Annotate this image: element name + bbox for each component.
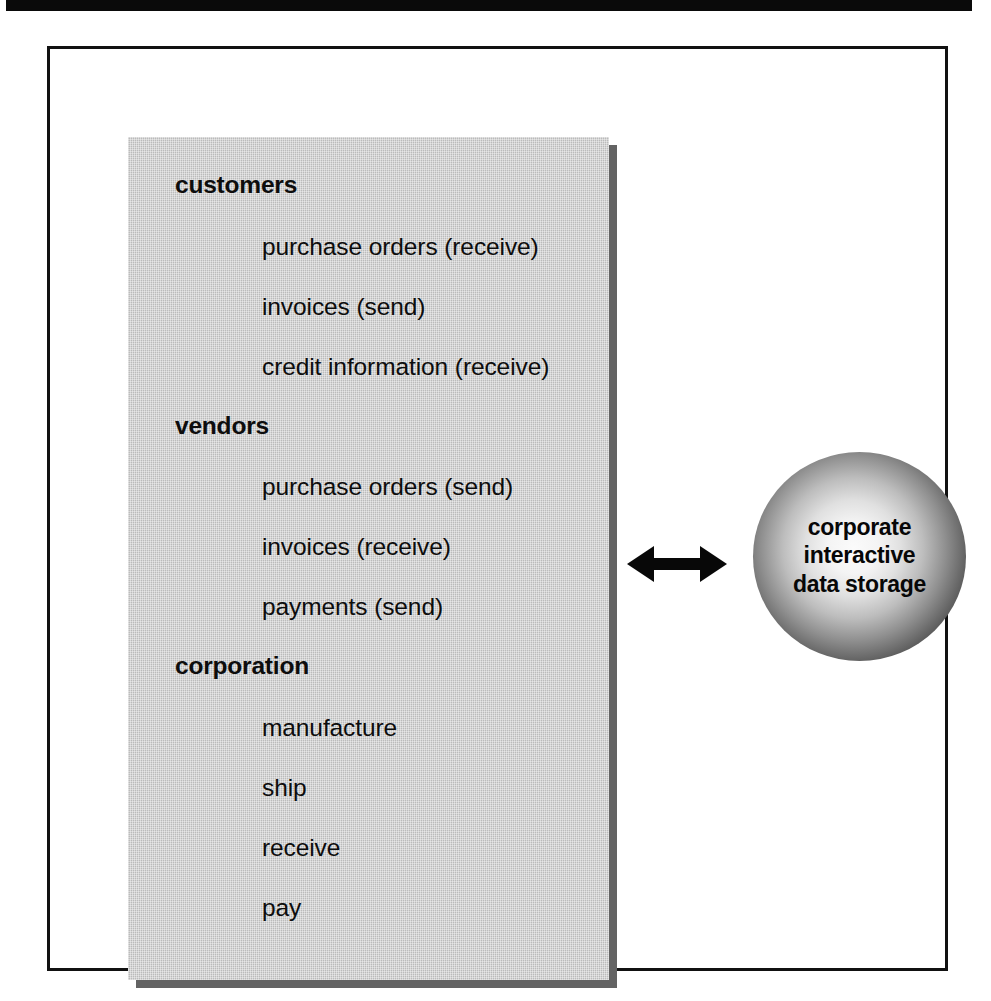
group-item-vendors-purchase-orders: purchase orders (send) <box>262 473 513 501</box>
group-item-corporation-ship: ship <box>262 774 307 802</box>
sphere-label-line-1: corporate <box>793 513 926 541</box>
group-item-vendors-invoices: invoices (receive) <box>262 533 451 561</box>
sphere-label: corporate interactive data storage <box>793 513 926 597</box>
sphere-label-line-2: interactive <box>793 541 926 569</box>
group-heading-corporation: corporation <box>175 652 309 680</box>
group-heading-customers: customers <box>175 171 297 199</box>
corporate-data-storage-sphere: corporate interactive data storage <box>753 452 966 661</box>
group-item-corporation-receive: receive <box>262 834 340 862</box>
group-item-customers-purchase-orders: purchase orders (receive) <box>262 233 539 261</box>
business-process-panel: customers purchase orders (receive) invo… <box>128 137 609 980</box>
figure-frame: customers purchase orders (receive) invo… <box>47 46 948 971</box>
sphere-label-line-3: data storage <box>793 570 926 598</box>
group-item-vendors-payments: payments (send) <box>262 593 443 621</box>
group-heading-vendors: vendors <box>175 412 269 440</box>
double-headed-arrow-icon <box>627 541 727 587</box>
group-item-customers-credit-information: credit information (receive) <box>262 353 549 381</box>
group-item-corporation-pay: pay <box>262 894 301 922</box>
group-item-corporation-manufacture: manufacture <box>262 714 397 742</box>
group-item-customers-invoices: invoices (send) <box>262 293 425 321</box>
scan-artifact-band <box>6 0 972 11</box>
